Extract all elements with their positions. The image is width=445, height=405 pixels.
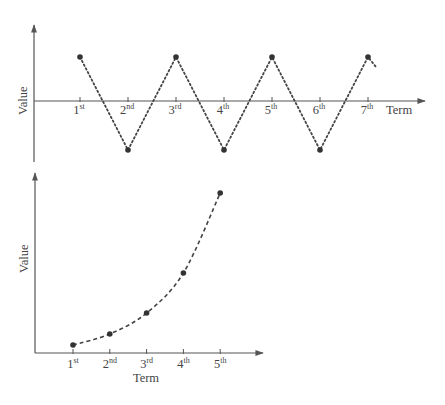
- x-axis-label: Term: [386, 103, 412, 117]
- y-axis-label: Value: [16, 86, 30, 115]
- chart-canvas: 1st2nd3rd4th5th6th7th Term Value 1st2nd3…: [0, 0, 445, 405]
- data-point: [70, 342, 76, 348]
- x-tick-label: 2nd: [120, 102, 134, 117]
- alternating-sequence-chart: 1st2nd3rd4th5th6th7th Term Value: [16, 25, 425, 162]
- geometric-sequence-chart: 1st2nd3rd4th5th Term Value: [17, 173, 263, 385]
- data-point: [317, 147, 323, 153]
- x-tick-label: 1st: [73, 102, 85, 117]
- data-curve: [73, 193, 220, 345]
- data-point: [173, 54, 179, 60]
- x-tick-label: 7th: [361, 102, 373, 117]
- data-point: [217, 190, 223, 196]
- data-point: [365, 54, 371, 60]
- x-tick-labels: 1st2nd3rd4th5th6th7th: [73, 102, 373, 117]
- x-tick-labels: 1st2nd3rd4th5th: [67, 356, 226, 371]
- data-point: [107, 331, 113, 337]
- x-tick-label: 2nd: [103, 356, 117, 371]
- data-point: [144, 310, 150, 316]
- data-point: [77, 54, 83, 60]
- y-axis-label: Value: [17, 244, 31, 273]
- x-tick-label: 5th: [265, 102, 277, 117]
- x-tick-label: 5th: [214, 356, 226, 371]
- data-points: [70, 190, 223, 348]
- x-tick-label: 3rd: [140, 356, 153, 371]
- x-tick-label: 4th: [217, 102, 229, 117]
- x-tick-label: 6th: [313, 102, 325, 117]
- data-point: [125, 147, 131, 153]
- data-point: [181, 270, 187, 276]
- data-point: [269, 54, 275, 60]
- x-tick-label: 3rd: [169, 102, 182, 117]
- data-point: [221, 147, 227, 153]
- x-axis-label: Term: [133, 371, 159, 385]
- x-tick-label: 1st: [67, 356, 79, 371]
- x-tick-label: 4th: [177, 356, 189, 371]
